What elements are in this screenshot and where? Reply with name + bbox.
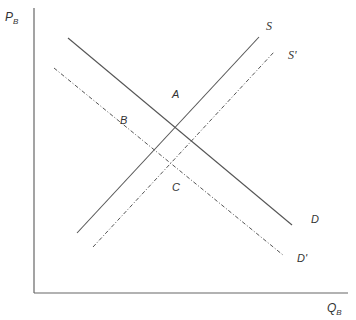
- demand-curve-d-prime: [54, 68, 283, 255]
- supply-demand-diagram: PB QB S S' D D' A B C: [0, 0, 356, 320]
- point-label-b: B: [120, 115, 127, 126]
- x-axis-label: QB: [327, 302, 342, 317]
- y-axis-label: PB: [5, 11, 18, 26]
- label-d-prime: D': [297, 253, 307, 264]
- point-label-c: C: [172, 182, 180, 193]
- demand-curve-d: [68, 38, 292, 225]
- label-d: D: [311, 214, 319, 225]
- label-s: S: [266, 20, 272, 32]
- supply-curve-s: [77, 37, 259, 233]
- diagram-canvas: [0, 0, 356, 320]
- point-label-a: A: [172, 89, 179, 100]
- label-s-prime: S': [288, 49, 297, 61]
